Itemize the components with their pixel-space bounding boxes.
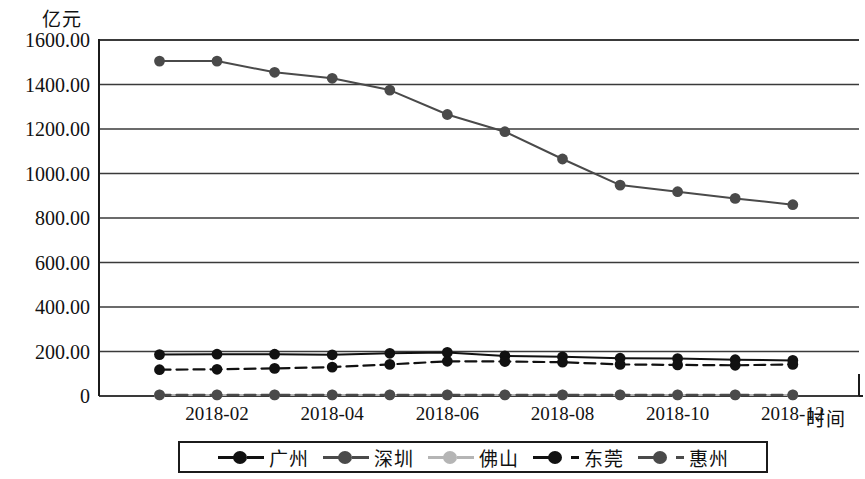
data-point-marker <box>384 85 395 96</box>
data-point-marker <box>615 180 626 191</box>
y-axis-tick-label: 1600.00 <box>25 30 90 50</box>
data-point-marker <box>557 390 568 401</box>
data-point-marker <box>787 359 798 370</box>
y-axis-tick-label: 400.00 <box>35 297 90 317</box>
y-axis-tick-label: 200.00 <box>35 342 90 362</box>
legend-item-3[interactable]: 佛山 <box>428 444 519 471</box>
legend-item-label: 惠州 <box>689 444 729 471</box>
data-point-marker <box>384 348 395 359</box>
line-chart: 亿元 1600.001400.001200.001000.00800.00600… <box>0 0 865 479</box>
data-point-marker <box>730 360 741 371</box>
data-point-marker <box>442 390 453 401</box>
data-point-marker <box>154 390 165 401</box>
x-axis-tick-label: 2018-02 <box>162 404 272 423</box>
legend-line-marker-icon <box>218 450 264 464</box>
data-point-marker <box>442 109 453 120</box>
y-axis-tick-label: 800.00 <box>35 208 90 228</box>
series-1 <box>154 347 798 366</box>
data-point-marker <box>212 364 223 375</box>
data-point-marker <box>672 390 683 401</box>
data-point-marker <box>500 390 511 401</box>
data-point-marker <box>212 349 223 360</box>
data-point-marker <box>615 390 626 401</box>
data-point-marker <box>500 356 511 367</box>
legend-item-5[interactable]: 惠州 <box>638 444 729 471</box>
data-point-marker <box>327 73 338 84</box>
x-axis-tick-label: 2018-04 <box>277 404 387 423</box>
data-point-marker <box>442 356 453 367</box>
data-point-marker <box>500 126 511 137</box>
legend-line-marker-icon <box>323 450 369 464</box>
data-point-marker <box>327 362 338 373</box>
legend-item-label: 佛山 <box>479 444 519 471</box>
y-axis-tick-label: 1000.00 <box>25 164 90 184</box>
legend-item-label: 深圳 <box>374 444 414 471</box>
data-point-marker <box>730 390 741 401</box>
y-axis-tick-label: 600.00 <box>35 253 90 273</box>
data-point-marker <box>615 359 626 370</box>
data-point-marker <box>672 186 683 197</box>
x-axis-tick-label: 2018-06 <box>392 404 502 423</box>
data-point-marker <box>787 390 798 401</box>
legend-line-marker-icon <box>428 450 474 464</box>
data-point-marker <box>212 390 223 401</box>
data-point-marker <box>154 56 165 67</box>
series-2 <box>154 56 798 210</box>
data-point-marker <box>269 363 280 374</box>
y-axis-tick-label: 1400.00 <box>25 75 90 95</box>
data-point-marker <box>384 390 395 401</box>
legend-item-2[interactable]: 深圳 <box>323 444 414 471</box>
data-point-marker <box>154 364 165 375</box>
data-point-marker <box>269 349 280 360</box>
data-point-marker <box>212 56 223 67</box>
series-line <box>160 361 793 369</box>
data-point-marker <box>269 390 280 401</box>
series-line <box>160 352 793 360</box>
x-axis-title: 时间 <box>806 404 846 431</box>
data-point-marker <box>672 360 683 371</box>
series-line <box>160 61 793 205</box>
y-axis-tick-label: 1200.00 <box>25 119 90 139</box>
data-point-marker <box>730 193 741 204</box>
y-axis-tick-label: 0 <box>80 386 90 406</box>
legend-line-marker-icon <box>638 450 684 464</box>
legend-item-1[interactable]: 广州 <box>218 444 309 471</box>
chart-legend: 广州深圳佛山东莞惠州 <box>178 441 768 473</box>
data-point-marker <box>557 154 568 165</box>
data-point-marker <box>384 359 395 370</box>
legend-item-4[interactable]: 东莞 <box>533 444 624 471</box>
data-point-marker <box>787 199 798 210</box>
data-point-marker <box>154 349 165 360</box>
data-point-marker <box>269 67 280 78</box>
x-axis-tick-label: 2018-08 <box>507 404 617 423</box>
y-axis-tick-labels: 1600.001400.001200.001000.00800.00600.00… <box>0 0 98 479</box>
x-axis-tick-label: 2018-10 <box>623 404 733 423</box>
data-point-marker <box>557 357 568 368</box>
legend-item-label: 广州 <box>269 444 309 471</box>
data-point-marker <box>327 390 338 401</box>
data-point-marker <box>327 349 338 360</box>
legend-item-label: 东莞 <box>584 444 624 471</box>
legend-line-marker-icon <box>533 450 579 464</box>
